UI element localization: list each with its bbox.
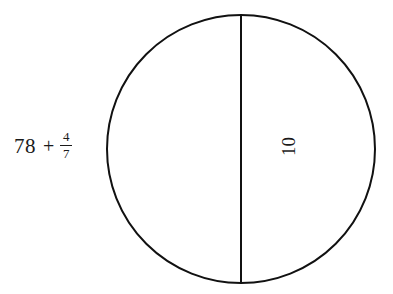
- diameter-length-label: 10: [279, 137, 298, 156]
- circle-diagram-svg: [0, 0, 393, 294]
- figure-canvas: 78 + 4 7 10: [0, 0, 393, 294]
- circle-diagram: [0, 0, 393, 294]
